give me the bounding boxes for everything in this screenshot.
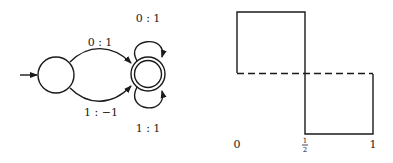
final-state	[131, 57, 165, 91]
x-tick-half-numerator: 1	[303, 137, 307, 145]
final-state-outer-ring	[131, 57, 165, 91]
figure-canvas: 0 : 1 1 : −1 0 : 1 1 : 1 0 1 2 1	[0, 0, 393, 163]
x-tick-half-denominator: 2	[303, 146, 307, 154]
self-loop-bottom	[135, 87, 163, 108]
final-state-inner-ring	[135, 61, 162, 88]
step-function-graph: 0 1 2 1	[234, 12, 377, 154]
automaton-diagram: 0 : 1 1 : −1 0 : 1 1 : 1	[20, 12, 165, 135]
transition-upper-arc	[70, 49, 131, 63]
x-tick-label-0: 0	[234, 138, 241, 151]
x-tick-label-half: 1 2	[302, 137, 308, 154]
transition-lower-label: 1 : −1	[84, 106, 118, 119]
self-loop-top	[135, 42, 163, 61]
self-loop-bottom-label: 1 : 1	[136, 122, 161, 135]
self-loop-top-label: 0 : 1	[136, 12, 161, 25]
transition-lower-arc	[70, 86, 131, 101]
transition-upper-label: 0 : 1	[88, 36, 113, 49]
initial-state	[38, 57, 74, 93]
x-tick-label-1: 1	[370, 138, 377, 151]
